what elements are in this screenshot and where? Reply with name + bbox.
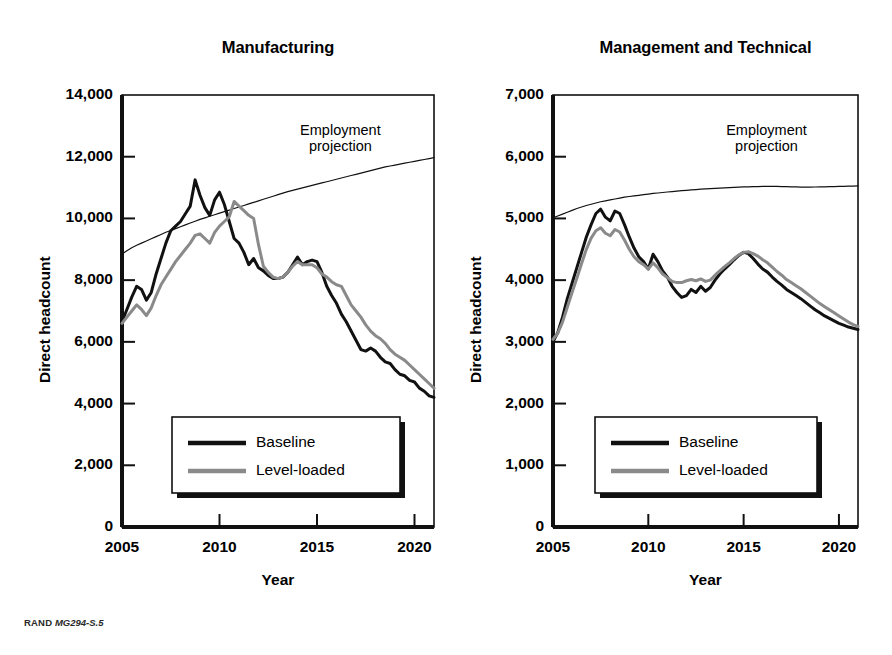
y-tick-label: 5,000 (505, 208, 544, 226)
y-tick-label: 3,000 (505, 332, 544, 350)
legend-label-level-loaded: Level-loaded (679, 461, 768, 479)
figure-container: Manufacturing02,0004,0006,0008,00010,000… (0, 0, 892, 655)
x-tick-label: 2015 (704, 538, 784, 556)
x-tick-label: 2005 (513, 538, 593, 556)
legend-box (595, 417, 817, 493)
series-line-level-loaded (553, 228, 858, 340)
y-tick-label: 4,000 (505, 270, 544, 288)
chart-panel-management-and-technical: Management and Technical01,0002,0003,000… (0, 0, 892, 655)
figure-footer: RAND MG294-S.5 (24, 617, 103, 628)
footer-figure-code: MG294-S.5 (55, 617, 104, 628)
x-tick-label: 2020 (799, 538, 879, 556)
series-line-employment-projection (553, 186, 858, 218)
y-axis-label: Direct headcount (467, 256, 485, 383)
y-tick-label: 0 (535, 517, 544, 535)
y-tick-label: 1,000 (505, 455, 544, 473)
chart-title: Management and Technical (493, 38, 892, 57)
x-tick-label: 2010 (608, 538, 688, 556)
x-axis-label: Year (493, 571, 892, 589)
plot-area-management-and-technical (0, 0, 892, 655)
footer-brand: RAND (24, 617, 52, 628)
employment-projection-annotation: Employment projection (692, 122, 842, 154)
y-tick-label: 7,000 (505, 85, 544, 103)
legend-label-baseline: Baseline (679, 433, 738, 451)
y-tick-label: 2,000 (505, 394, 544, 412)
y-tick-label: 6,000 (505, 147, 544, 165)
